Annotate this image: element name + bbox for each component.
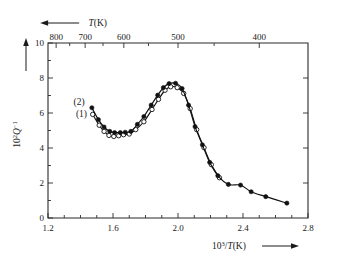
y-tick-label: 6 xyxy=(40,108,45,118)
y-tick-label: 2 xyxy=(40,178,45,188)
x-tick-label: 1.6 xyxy=(107,223,119,233)
data-point-open xyxy=(156,97,160,101)
data-point-open xyxy=(142,120,146,124)
top-axis-tick-labels: 800700600500400 xyxy=(49,32,266,42)
data-point-filled xyxy=(156,93,160,97)
plot-frame xyxy=(48,43,308,218)
series-annotations: (1)(2) xyxy=(73,97,87,120)
data-point-open xyxy=(107,133,111,137)
data-point-filled xyxy=(135,122,139,126)
y-tick-label: 8 xyxy=(40,73,45,83)
data-point-filled xyxy=(142,114,146,118)
x-axis-title: 103/T(K) xyxy=(212,240,246,252)
data-point-filled xyxy=(285,201,289,205)
data-point-filled xyxy=(113,131,117,135)
x-tick-label: 2.8 xyxy=(302,223,314,233)
x-axis-title-group: 103/T(K) xyxy=(212,240,299,252)
data-point-filled xyxy=(90,106,94,110)
top-axis-title-group: T(K) xyxy=(40,18,107,29)
top-axis-title: T(K) xyxy=(89,18,108,29)
y-axis-title-group: 102Q−1 xyxy=(11,38,29,148)
top-tick-label: 400 xyxy=(253,32,267,42)
data-series xyxy=(90,81,289,205)
top-tick-label: 800 xyxy=(49,32,63,42)
data-point-open xyxy=(102,129,106,133)
data-point-filled xyxy=(167,82,171,86)
arrow-left-icon xyxy=(40,20,48,26)
x-tick-label: 2.4 xyxy=(237,223,249,233)
chart-figure: 1.21.62.02.42.8 800700600500400 0246810 … xyxy=(0,0,338,264)
data-point-filled xyxy=(264,195,268,199)
y-axis-title: 102Q−1 xyxy=(11,121,22,148)
y-tick-label: 4 xyxy=(40,143,45,153)
y-tick-label: 10 xyxy=(35,38,45,48)
series-label: (1) xyxy=(76,109,87,120)
x-axis-ticks xyxy=(48,213,308,218)
series-line xyxy=(92,83,287,203)
data-point-filled xyxy=(186,103,190,107)
series-label: (2) xyxy=(73,97,84,108)
top-tick-label: 600 xyxy=(117,32,131,42)
data-point-open xyxy=(150,107,154,111)
data-point-filled xyxy=(96,118,100,122)
top-tick-label: 700 xyxy=(78,32,92,42)
data-point-open xyxy=(112,134,116,138)
data-point-filled xyxy=(173,81,177,85)
x-axis-tick-labels: 1.21.62.02.42.8 xyxy=(42,223,314,233)
data-point-filled xyxy=(123,130,127,134)
data-point-filled xyxy=(180,86,184,90)
data-point-filled xyxy=(216,174,220,178)
data-point-filled xyxy=(129,129,133,133)
top-tick-label: 500 xyxy=(171,32,185,42)
y-tick-label: 0 xyxy=(40,213,45,223)
data-point-filled xyxy=(102,125,106,129)
data-point-filled xyxy=(108,129,112,133)
data-point-filled xyxy=(238,183,242,187)
y-axis-ticks xyxy=(48,43,53,218)
data-point-filled xyxy=(193,125,197,129)
arrow-right-icon xyxy=(291,243,299,249)
data-point-filled xyxy=(118,131,122,135)
right-axis-ticks xyxy=(303,78,308,183)
data-point-filled xyxy=(226,182,230,186)
top-axis-ticks xyxy=(56,43,259,48)
data-point-filled xyxy=(208,160,212,164)
y-axis-tick-labels: 0246810 xyxy=(35,38,45,223)
arrow-up-icon xyxy=(23,38,29,46)
data-point-filled xyxy=(249,190,253,194)
x-tick-label: 1.2 xyxy=(42,223,53,233)
data-point-filled xyxy=(161,86,165,90)
data-point-filled xyxy=(200,143,204,147)
data-point-filled xyxy=(149,103,153,107)
data-point-open xyxy=(175,85,179,89)
x-tick-label: 2.0 xyxy=(172,223,184,233)
data-series-layer xyxy=(90,81,289,205)
